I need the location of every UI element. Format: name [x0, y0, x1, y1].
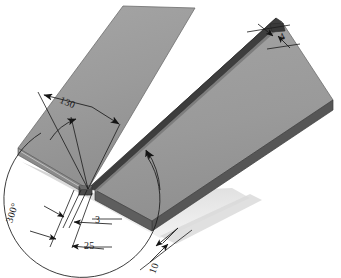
dimension-label-3: 3 — [95, 215, 100, 225]
isometric-plate-drawing — [0, 0, 341, 278]
technical-drawing-figure: 130 300° 3 25 10 4 — [0, 0, 341, 278]
dimension-label-25: 25 — [84, 241, 95, 251]
